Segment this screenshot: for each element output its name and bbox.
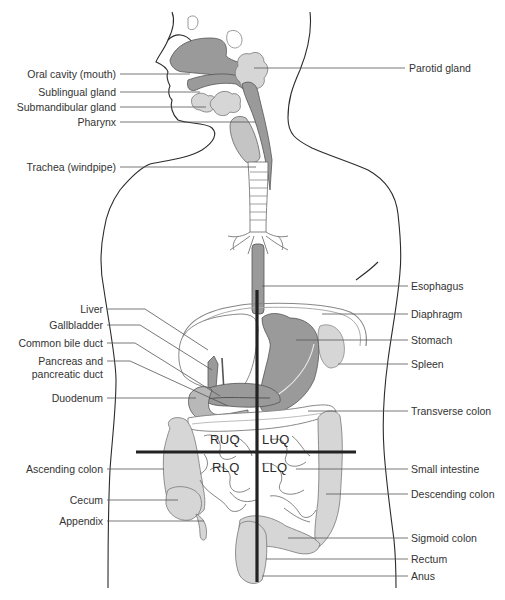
trachea-shape	[228, 162, 288, 254]
quadrant-ruq: RUQ	[210, 432, 240, 447]
label-sublingual-gland: Sublingual gland	[38, 86, 116, 98]
gallbladder-shape	[208, 356, 218, 388]
label-pancreas-line1: Pancreas and	[38, 355, 103, 367]
label-submandibular-gland: Submandibular gland	[17, 101, 116, 113]
label-oral-cavity: Oral cavity (mouth)	[27, 68, 116, 80]
label-diaphragm: Diaphragm	[411, 308, 462, 320]
label-trachea: Trachea (windpipe)	[27, 161, 117, 173]
quadrant-llq: LLQ	[262, 460, 287, 475]
label-small-intestine: Small intestine	[411, 463, 479, 475]
submandibular-gland-shape	[210, 91, 240, 115]
label-transverse-colon: Transverse colon	[411, 405, 491, 417]
quadrant-luq: LUQ	[262, 432, 290, 447]
label-descending-colon: Descending colon	[411, 488, 494, 500]
label-pharynx: Pharynx	[77, 116, 116, 128]
label-appendix: Appendix	[59, 515, 103, 527]
label-common-bile-duct: Common bile duct	[18, 337, 103, 349]
liver-shape	[179, 314, 258, 390]
label-duodenum: Duodenum	[52, 392, 103, 404]
descending-colon-shape	[315, 411, 342, 548]
label-pancreas-line2: pancreatic duct	[32, 368, 103, 380]
label-ascending-colon: Ascending colon	[26, 463, 103, 475]
sinus-1	[188, 16, 198, 30]
label-spleen: Spleen	[411, 358, 444, 370]
label-esophagus: Esophagus	[411, 280, 464, 292]
digestive-system-diagram: Oral cavity (mouth) Sublingual gland Sub…	[0, 0, 505, 600]
rectum-shape	[236, 521, 267, 583]
spleen-shape	[318, 325, 344, 368]
label-rectum: Rectum	[411, 553, 447, 565]
label-cecum: Cecum	[70, 494, 103, 506]
label-sigmoid-colon: Sigmoid colon	[411, 532, 477, 544]
sinus-2	[227, 30, 242, 48]
quadrant-rlq: RLQ	[212, 460, 240, 475]
label-liver: Liver	[80, 303, 103, 315]
label-parotid-gland: Parotid gland	[409, 62, 471, 74]
label-stomach: Stomach	[411, 334, 452, 346]
appendix-shape	[196, 514, 207, 540]
label-gallbladder: Gallbladder	[49, 319, 103, 331]
pancreas-shape	[200, 383, 280, 407]
label-anus: Anus	[411, 570, 435, 582]
